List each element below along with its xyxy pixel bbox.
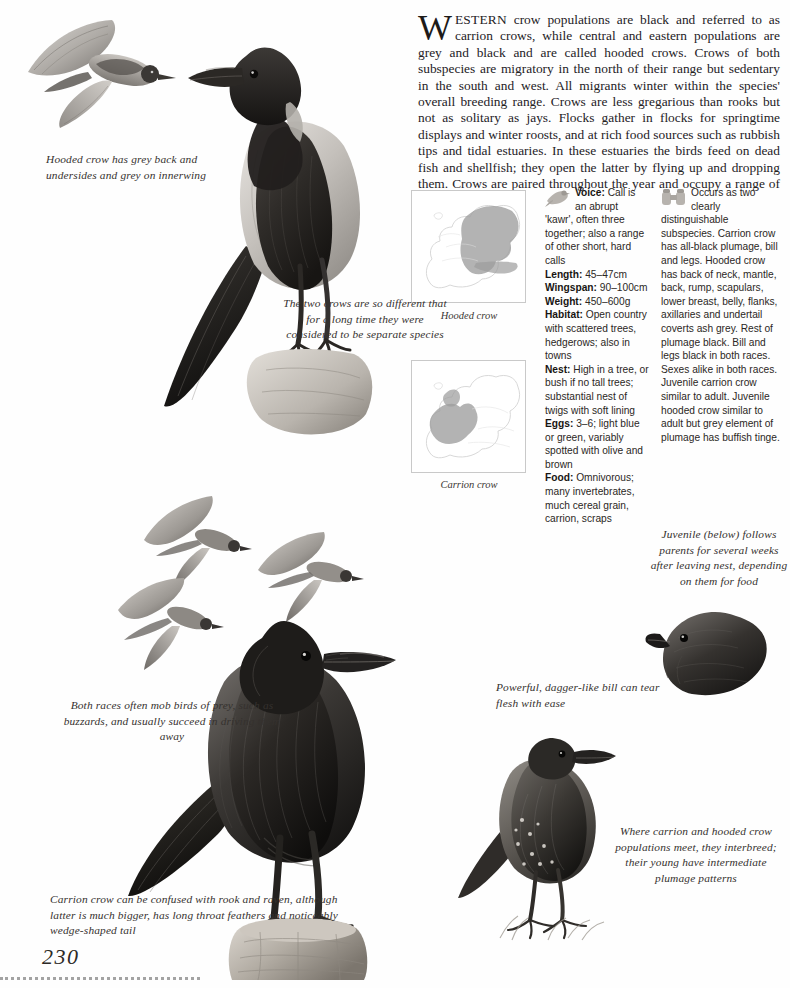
fact-nest: Nest: High in a tree, or bush if no tall… — [545, 363, 649, 417]
bird-silhouette-icon — [545, 187, 571, 209]
fact-weight: Weight: 450–600g — [545, 295, 649, 309]
intro-paragraph: WESTERN crow populations are black and r… — [418, 12, 780, 209]
drop-cap: W — [418, 12, 454, 43]
fact-habitat: Habitat: Open country with scattered tre… — [545, 308, 649, 362]
annotation-bill: Powerful, dagger-like bill can tear fles… — [496, 680, 674, 711]
annotation-two-crows: The two crows are so different that for … — [282, 296, 448, 343]
guide-page: WESTERN crow populations are black and r… — [0, 0, 790, 988]
juvenile-crow-illustration — [452, 712, 630, 942]
fact-length: Length: 45–47cm — [545, 268, 649, 282]
intro-body: crow populations are black and referred … — [418, 12, 780, 207]
annotation-hooded-grey: Hooded crow has grey back and undersides… — [46, 152, 236, 183]
europe-map-carrion-icon — [412, 361, 525, 472]
intro-smallcaps: ESTERN — [455, 12, 507, 27]
page-number: 230 — [42, 944, 80, 970]
binoculars-icon — [661, 187, 687, 209]
fact-food: Food: Omnivorous; many invertebrates, mu… — [545, 471, 649, 525]
annotation-mobbing: Both races often mob birds of prey, such… — [56, 698, 288, 745]
map-caption-carrion-crow: Carrion crow — [404, 479, 534, 490]
factfile-right-column: Occurs as two clearly distinguishable su… — [661, 186, 783, 444]
factfile-left-column: Voice: Call is an abrupt 'kawr', often t… — [545, 186, 649, 526]
annotation-juvenile: Juvenile (below) follows parents for sev… — [648, 527, 790, 589]
fact-wingspan: Wingspan: 90–100cm — [545, 281, 649, 295]
hooded-crow-perched-illustration — [150, 10, 420, 450]
distribution-map-carrion-crow — [411, 360, 526, 473]
factfile-description: Occurs as two clearly distinguishable su… — [661, 186, 783, 444]
distribution-map-hooded-crow — [411, 190, 526, 303]
footer-rule — [0, 977, 200, 983]
europe-map-hooded-icon — [412, 191, 525, 302]
annotation-confused: Carrion crow can be confused with rook a… — [50, 892, 366, 939]
annotation-interbreed: Where carrion and hooded crow population… — [608, 824, 784, 886]
fact-eggs: Eggs: 3–6; light blue or green, variably… — [545, 417, 649, 471]
